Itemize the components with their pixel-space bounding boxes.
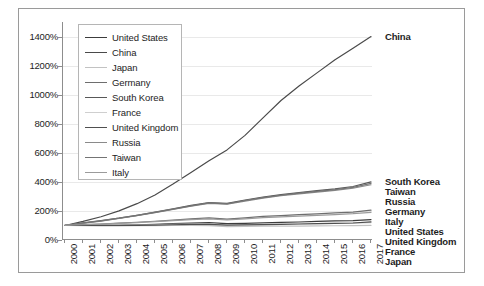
legend-item[interactable]: Japan xyxy=(85,60,181,75)
legend-color-swatch xyxy=(85,82,107,83)
legend-item-label: China xyxy=(112,47,136,58)
legend-item-label: United States xyxy=(112,32,168,43)
x-axis-tick-label: 2017 xyxy=(374,244,385,264)
x-axis-tick-label: 2001 xyxy=(86,244,97,264)
legend-color-swatch xyxy=(85,97,107,98)
x-axis-tick-label: 2013 xyxy=(302,244,313,264)
y-axis-tick-label: 1400% xyxy=(10,32,58,42)
series-end-label: Japan xyxy=(385,257,412,267)
x-axis-tick-label: 2006 xyxy=(176,244,187,264)
legend-item-label: Russia xyxy=(112,137,140,148)
chart-screenshot: 1400%1200%1000%800%600%400%200%0% 200020… xyxy=(0,0,484,286)
x-axis-tick-label: 2010 xyxy=(248,244,259,264)
x-axis-tick-label: 2004 xyxy=(140,244,151,264)
legend-item[interactable]: South Korea xyxy=(85,90,181,105)
legend-color-swatch xyxy=(85,52,107,53)
legend-item-label: France xyxy=(112,107,141,118)
legend-color-swatch xyxy=(85,142,107,143)
x-axis-tick-labels: 2000200120022003200420052006200720082009… xyxy=(62,242,372,282)
x-axis-tick-label: 2005 xyxy=(158,244,169,264)
legend-item-label: United Kingdom xyxy=(112,122,178,133)
x-axis-tick-label: 2002 xyxy=(104,244,115,264)
legend-item-label: South Korea xyxy=(112,92,164,103)
x-axis-tick-label: 2012 xyxy=(284,244,295,264)
legend-item-label: Japan xyxy=(112,62,137,73)
x-axis-tick-label: 2008 xyxy=(212,244,223,264)
y-axis-tick-label: 0% xyxy=(10,235,58,245)
x-axis-tick-label: 2007 xyxy=(194,244,205,264)
y-axis-tick-label: 600% xyxy=(10,148,58,158)
y-axis-tick-label: 1200% xyxy=(10,61,58,71)
x-axis-tick-label: 2000 xyxy=(68,244,79,264)
legend-item[interactable]: China xyxy=(85,45,181,60)
legend-item-label: Germany xyxy=(112,77,150,88)
x-axis-tick-label: 2009 xyxy=(230,244,241,264)
legend-color-swatch xyxy=(85,127,107,128)
legend-color-swatch xyxy=(85,37,107,38)
legend-item-label: Taiwan xyxy=(112,152,141,163)
legend-item[interactable]: France xyxy=(85,105,181,120)
legend-item[interactable]: Germany xyxy=(85,75,181,90)
legend-item[interactable]: United States xyxy=(85,30,181,45)
x-axis-tick-label: 2015 xyxy=(338,244,349,264)
y-axis-tick-label: 200% xyxy=(10,206,58,216)
y-axis-tick-labels: 1400%1200%1000%800%600%400%200%0% xyxy=(8,22,58,240)
y-axis-tick-label: 800% xyxy=(10,119,58,129)
legend-color-swatch xyxy=(85,157,107,158)
chart-legend: United StatesChinaJapanGermanySouth Kore… xyxy=(78,24,182,180)
legend-color-swatch xyxy=(85,172,107,173)
legend-item[interactable]: Taiwan xyxy=(85,150,181,165)
legend-color-swatch xyxy=(85,67,107,68)
legend-item-label: Italy xyxy=(112,167,129,178)
legend-item[interactable]: United Kingdom xyxy=(85,120,181,135)
y-axis-tick-label: 1000% xyxy=(10,90,58,100)
legend-color-swatch xyxy=(85,112,107,113)
y-axis-tick-label: 400% xyxy=(10,177,58,187)
series-end-labels: ChinaSouth KoreaTaiwanRussiaGermanyItaly… xyxy=(385,0,480,286)
x-axis-tick-label: 2014 xyxy=(320,244,331,264)
x-axis-tick-label: 2016 xyxy=(356,244,367,264)
x-axis-tick-label: 2003 xyxy=(122,244,133,264)
series-end-label: China xyxy=(385,32,411,42)
legend-item[interactable]: Russia xyxy=(85,135,181,150)
x-axis-tick-label: 2011 xyxy=(266,244,277,264)
legend-item[interactable]: Italy xyxy=(85,165,181,180)
